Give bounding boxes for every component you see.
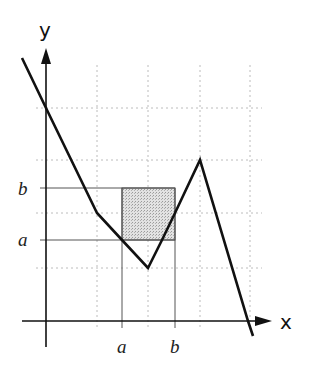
y-tick-label-a: a [18, 229, 28, 250]
y-axis-label: y [39, 18, 51, 42]
x-tick-label-a: a [117, 336, 127, 357]
x-tick-label-b: b [170, 336, 180, 357]
x-axis-arrow-icon [255, 316, 272, 326]
x-axis-label: x [280, 310, 292, 334]
y-tick-label-b: b [18, 178, 28, 199]
function-graph-diagram: y x b a a b [0, 0, 309, 375]
y-axis-arrow-icon [41, 48, 51, 64]
